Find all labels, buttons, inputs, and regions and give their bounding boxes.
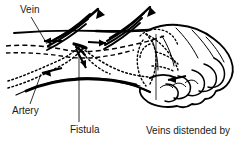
- artery-dotted-path-lower: [8, 47, 84, 88]
- artery-flow-arrow-left: [42, 68, 62, 77]
- av-fistula-illustration: Vein Artery Fistula Veins distended by a…: [0, 0, 243, 147]
- forearm-bottom-edge-thick: [26, 79, 136, 91]
- artery-dotted-path: [8, 46, 80, 81]
- label-vein: Vein: [20, 4, 39, 16]
- hand-vein-bulge: [150, 75, 176, 78]
- distension-arrow-group-right: [104, 7, 156, 49]
- hand-vein-outline-dotted: [140, 29, 178, 46]
- hand-vein-arrow: [168, 76, 186, 83]
- label-artery: Artery: [12, 105, 39, 117]
- label-veins-distended: Veins distended by arterial blood circul…: [146, 102, 230, 147]
- vein-flow-arrow-right: [88, 40, 106, 47]
- label-fistula: Fistula: [70, 124, 99, 136]
- label-veins-distended-line1: Veins distended by: [146, 125, 230, 137]
- hand-tendon-lines: [152, 28, 224, 70]
